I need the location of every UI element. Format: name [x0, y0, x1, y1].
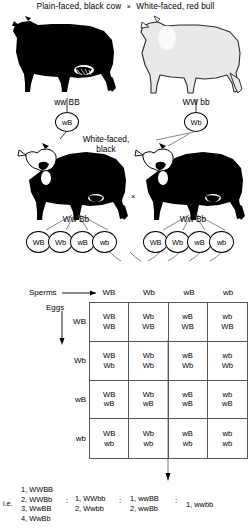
punnett-cell: WBwB [90, 381, 129, 420]
punnett-cell-egg: wB [104, 399, 115, 408]
punnett-cell-sperm: WB [103, 312, 115, 321]
connector-gamete-right-f1 [156, 132, 194, 140]
parent-right-gamete-circle: Wb [184, 112, 208, 132]
punnett-cell-sperm: WB [103, 429, 115, 438]
punnett-cell-egg: Wb [143, 361, 154, 370]
punnett-cell-egg: Wb [103, 361, 114, 370]
ratio-group-2: 1, WWbb 2, Wwbb [75, 494, 105, 513]
punnett-cell: WbwB [129, 381, 168, 420]
ratio-separator-2: : [119, 496, 121, 505]
eggs-label: Eggs [46, 303, 64, 312]
punnett-cell-egg: Wb [222, 361, 233, 370]
punnett-cell-egg: wB [143, 399, 154, 408]
ratio-item: 2, wwBb [130, 504, 159, 514]
punnett-cell-egg: wB [222, 399, 233, 408]
ratio-item: 2, WWBb [21, 495, 53, 505]
punnett-cell-sperm: WB [103, 390, 115, 399]
punnett-cell-sperm: wB [182, 429, 193, 438]
punnett-cell: wbWb [208, 342, 247, 381]
f1-cow-left-illustration [18, 143, 128, 220]
ratio-item: 4, WwBb [21, 514, 53, 524]
ratio-group-4: 1, wwbb [186, 500, 213, 510]
punnett-cell: WBWb [90, 342, 129, 381]
punnett-cell-sperm: WB [103, 351, 115, 360]
punnett-cell: wBWb [169, 342, 208, 381]
punnett-col-header-2: Wb [129, 288, 169, 297]
f1-cow-right-illustration [135, 143, 245, 220]
punnett-cell-sperm: wb [223, 390, 233, 399]
ratio-separator-3: : [175, 496, 177, 505]
connector-rg4-tail [210, 252, 222, 261]
ratio-item: 2, Wwbb [75, 504, 105, 514]
parent-left-phenotype: Plain-faced, black cow [37, 1, 122, 11]
punnett-cell-egg: wB [182, 399, 193, 408]
punnett-cell-egg: WB [103, 322, 115, 331]
punnett-cell: wbwb [208, 419, 247, 458]
ratio-separator-1: : [66, 496, 68, 505]
eggs-arrow-head [60, 338, 65, 345]
punnett-cell: wBwB [169, 381, 208, 420]
ratio-item: 1, WWBB [21, 485, 53, 495]
ratio-item: 1, wwBB [130, 494, 159, 504]
ratio-group-3: 1, wwBB 2, wwBb [130, 494, 159, 513]
ratio-item: 1, WWbb [75, 494, 105, 504]
punnett-row-header-1: WB [56, 317, 86, 326]
f1-right-genotype: Ww Bb [163, 214, 223, 224]
parental-cross-symbol: × [124, 3, 134, 10]
f1-phenotype-line2: black [58, 145, 154, 155]
ratio-item: 1, wwbb [186, 500, 213, 510]
ratio-prefix: i.e. [3, 499, 13, 508]
f1-right-gamete-4: wb [209, 231, 234, 253]
ratio-summary: i.e. 1, WWBB 2, WWBb 3, WwBB 4, WwBb : 1… [0, 483, 251, 528]
parent-left-genotype: ww BB [37, 97, 97, 107]
punnett-cell: WBWB [90, 303, 129, 342]
punnett-cell: WbWb [129, 342, 168, 381]
ratio-group-1: 1, WWBB 2, WWBb 3, WwBB 4, WwBb [21, 485, 53, 523]
connector-rg1-tail [148, 252, 160, 261]
punnett-cell-egg: wb [183, 439, 193, 448]
parent-bull-white-illustration [141, 16, 242, 93]
sperms-label: Sperms [29, 288, 57, 297]
result-arrow-head [166, 473, 171, 481]
punnett-cell: Wbwb [129, 419, 168, 458]
punnett-cell-egg: WB [221, 322, 233, 331]
punnett-cell: wbwB [208, 381, 247, 420]
punnett-cell-egg: wb [144, 439, 154, 448]
punnett-cell-sperm: wb [223, 312, 233, 321]
punnett-cell-egg: wb [223, 439, 233, 448]
ratio-item: 3, WwBB [21, 504, 53, 514]
parent-right-phenotype: White-faced, red bull [136, 1, 214, 11]
punnett-cell: WBwb [90, 419, 129, 458]
f1-left-gamete-4: wb [92, 231, 117, 253]
parent-left-gamete-circle: wB [55, 112, 79, 132]
punnett-cell-sperm: Wb [143, 351, 154, 360]
punnett-square: WBWB WbWB wBWB wbWB WBWb WbWb wBWb wbWb … [89, 302, 248, 459]
connector-lg-extra-tail [130, 252, 141, 261]
punnett-cell-egg: wb [104, 439, 114, 448]
cross-header: Plain-faced, black cow × White-faced, re… [0, 1, 251, 11]
punnett-row-header-3: wB [56, 395, 86, 404]
punnett-cell-egg: WB [182, 322, 194, 331]
punnett-col-header-4: wb [208, 288, 248, 297]
punnett-cell: wbWB [208, 303, 247, 342]
punnett-row-header-4: wb [56, 434, 86, 443]
f1-left-genotype: Ww Bb [46, 214, 106, 224]
punnett-cell-sperm: wb [223, 429, 233, 438]
punnett-cell: WbWB [129, 303, 168, 342]
connector-f1-pointer [168, 134, 189, 146]
punnett-cell-sperm: wb [223, 351, 233, 360]
f1-phenotype-label: White-faced, black [58, 135, 154, 154]
punnett-col-header-3: wB [169, 288, 209, 297]
punnett-cell-egg: Wb [182, 361, 193, 370]
punnett-cell: wBWB [169, 303, 208, 342]
punnett-cell-sperm: Wb [143, 312, 154, 321]
punnett-row-header-2: Wb [56, 356, 86, 365]
punnett-cell-sperm: wB [182, 312, 193, 321]
punnett-cell-sperm: wB [182, 390, 193, 399]
punnett-cell-sperm: wB [182, 351, 193, 360]
connector-lg4-tail [110, 252, 121, 261]
parent-right-genotype: WW bb [166, 97, 226, 107]
connector-rg2-tail [168, 252, 180, 261]
f1-cross-symbol: × [131, 192, 135, 201]
punnett-cell-sperm: Wb [143, 390, 154, 399]
